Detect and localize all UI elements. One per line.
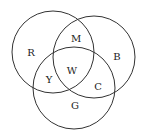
- region-label-m: M: [71, 33, 81, 44]
- region-label-g: G: [71, 100, 79, 111]
- region-label-r: R: [27, 47, 35, 58]
- circle-g: [33, 47, 115, 129]
- region-label-c: C: [94, 81, 102, 92]
- region-label-w: W: [67, 65, 78, 76]
- venn-diagram: R B G M Y C W: [0, 0, 143, 136]
- region-label-b: B: [113, 51, 120, 62]
- region-label-y: Y: [45, 74, 53, 85]
